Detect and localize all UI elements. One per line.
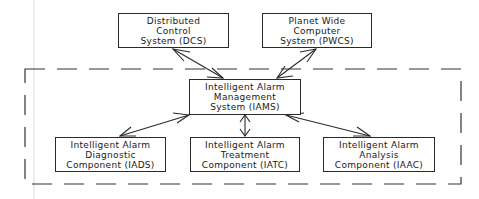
node-iads: Intelligent Alarm Diagnostic Component (… (55, 137, 166, 172)
diagram-canvas: Distributed Control System (DCS) Planet … (0, 0, 479, 199)
node-iams-line-3: System (IAMS) (210, 102, 280, 112)
node-dcs-line-2: Control (156, 26, 191, 36)
arrowhead-iaac-icon (353, 127, 370, 136)
edge-iams-iaac (286, 115, 370, 136)
node-iams-line-1: Intelligent Alarm (205, 82, 285, 92)
node-iatc: Intelligent Alarm Treatment Component (I… (190, 137, 300, 172)
node-iatc-line-3: Component (IATC) (202, 160, 288, 170)
node-iatc-line-1: Intelligent Alarm (205, 140, 285, 150)
node-iads-line-3: Component (IADS) (66, 160, 154, 170)
node-pwcs-line-2: Computer (293, 26, 340, 36)
node-iads-line-1: Intelligent Alarm (71, 140, 151, 150)
node-iams-line-2: Management (214, 92, 276, 102)
node-iaac: Intelligent Alarm Analysis Component (IA… (323, 137, 435, 172)
node-iams: Intelligent Alarm Management System (IAM… (189, 79, 301, 115)
node-iads-line-2: Diagnostic (85, 150, 136, 160)
edge-pwcs-iams (277, 49, 316, 78)
node-iaac-line-1: Intelligent Alarm (339, 140, 419, 150)
node-iaac-line-3: Component (IAAC) (335, 160, 423, 170)
node-dcs-line-3: System (DCS) (141, 36, 207, 46)
edge-iams-iads (120, 115, 189, 136)
node-dcs-line-1: Distributed (147, 16, 200, 26)
node-pwcs-line-3: System (PWCS) (280, 36, 354, 46)
node-iatc-line-2: Treatment (221, 150, 270, 160)
node-pwcs: Planet Wide Computer System (PWCS) (262, 13, 372, 48)
edge-dcs-iams (173, 49, 223, 78)
node-dcs: Distributed Control System (DCS) (118, 13, 229, 48)
node-pwcs-line-1: Planet Wide (289, 16, 346, 26)
node-iaac-line-2: Analysis (359, 150, 398, 160)
